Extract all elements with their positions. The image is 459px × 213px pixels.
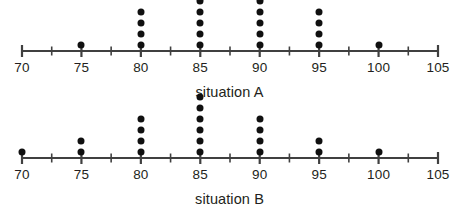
data-dot [19, 149, 26, 156]
data-dot [197, 20, 204, 27]
data-dot [197, 149, 204, 156]
dot-plot-situation-b: 707580859095100105 situation B [0, 107, 459, 213]
data-dot [197, 9, 204, 16]
data-dot [137, 31, 144, 38]
data-dot [78, 138, 85, 145]
plot-area-situation-a: 707580859095100105 [0, 0, 459, 72]
data-dot [256, 127, 263, 134]
tick-label-70: 70 [14, 168, 29, 182]
tick-label-105: 105 [426, 61, 449, 75]
plot-area-situation-b: 707580859095100105 [0, 107, 459, 179]
data-dot [197, 31, 204, 38]
data-dot [78, 42, 85, 49]
data-dot [137, 9, 144, 16]
data-dot [256, 116, 263, 123]
data-dot [256, 138, 263, 145]
tick-label-100: 100 [367, 168, 390, 182]
data-dot [197, 116, 204, 123]
data-dot [256, 20, 263, 27]
tick-label-75: 75 [74, 61, 89, 75]
data-dot [197, 105, 204, 112]
data-dot [137, 42, 144, 49]
data-dot [137, 138, 144, 145]
data-dot [197, 42, 204, 49]
data-dot [316, 9, 323, 16]
tick-label-75: 75 [74, 168, 89, 182]
tick-label-105: 105 [426, 168, 449, 182]
data-dot [256, 149, 263, 156]
data-dot [316, 138, 323, 145]
dot-plot-figure: 707580859095100105 situation A 707580859… [0, 0, 459, 213]
tick-label-85: 85 [193, 61, 208, 75]
caption-situation-b: situation B [0, 192, 459, 207]
data-dot [375, 42, 382, 49]
tick-label-70: 70 [14, 61, 29, 75]
data-dot [137, 149, 144, 156]
data-dot [137, 127, 144, 134]
tick-label-90: 90 [252, 61, 267, 75]
tick-label-80: 80 [133, 61, 148, 75]
data-dot [137, 116, 144, 123]
tick-label-100: 100 [367, 61, 390, 75]
tick-label-95: 95 [311, 61, 326, 75]
caption-situation-a: situation A [0, 85, 459, 100]
tick-label-85: 85 [193, 168, 208, 182]
number-line-axis-b [0, 107, 459, 179]
data-dot [256, 9, 263, 16]
number-line-axis-a [0, 0, 459, 72]
data-dot [256, 31, 263, 38]
data-dot [316, 20, 323, 27]
data-dot [375, 149, 382, 156]
data-dot [197, 127, 204, 134]
data-dot [78, 149, 85, 156]
tick-label-90: 90 [252, 168, 267, 182]
data-dot [316, 42, 323, 49]
data-dot [316, 149, 323, 156]
data-dot [137, 20, 144, 27]
data-dot [197, 138, 204, 145]
tick-label-80: 80 [133, 168, 148, 182]
data-dot [256, 42, 263, 49]
data-dot [316, 31, 323, 38]
tick-label-95: 95 [311, 168, 326, 182]
data-dot [197, 94, 204, 101]
dot-plot-situation-a: 707580859095100105 situation A [0, 0, 459, 107]
